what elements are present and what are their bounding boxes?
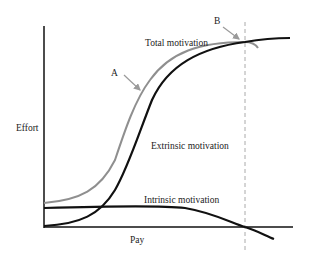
total-motivation-label: Total motivation (145, 38, 208, 48)
extrinsic-motivation-label: Extrinsic motivation (151, 141, 229, 151)
x-axis-label: Pay (130, 235, 145, 245)
intrinsic-motivation-label: Intrinsic motivation (144, 195, 219, 205)
y-axis-label: Effort (16, 123, 39, 133)
total-motivation-curve (44, 42, 258, 203)
point-a-label: A (111, 68, 118, 78)
intrinsic-motivation-curve (44, 206, 274, 239)
motivation-diagram: Effort Pay Total motivation Extrinsic mo… (0, 0, 311, 257)
point-b-label: B (214, 16, 220, 26)
arrow-a (124, 75, 140, 90)
arrow-b (223, 27, 239, 39)
